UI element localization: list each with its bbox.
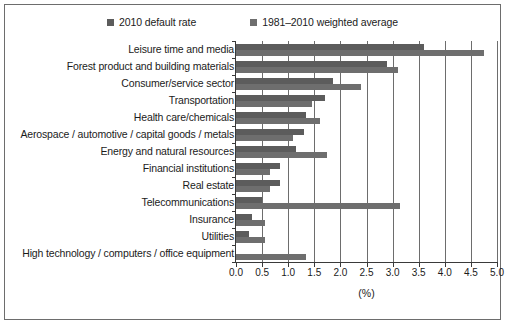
y-axis-category-label: Consumer/service sector: [121, 78, 234, 89]
x-tick-label: 5.0: [490, 268, 504, 278]
y-axis-category-label: Real estate: [183, 180, 234, 191]
bar-weighted-average: [236, 169, 270, 175]
bar-group: [236, 177, 497, 194]
bar-group: [236, 211, 497, 228]
bar-group: [236, 245, 497, 262]
bar-group: [236, 109, 497, 126]
x-tick-label: 2.5: [360, 268, 374, 278]
bar-default-rate: [236, 146, 296, 152]
bar-weighted-average: [236, 203, 400, 209]
chart-legend: 2010 default rate 1981–2010 weighted ave…: [0, 14, 505, 30]
y-axis-line: [235, 41, 236, 262]
x-axis-line: [235, 262, 497, 263]
x-tick-label: 3.5: [412, 268, 426, 278]
bar-weighted-average: [236, 50, 484, 56]
y-axis-category-label: Health care/chemicals: [134, 112, 234, 123]
x-tick-label: 1.0: [281, 268, 295, 278]
y-axis-category-label: Utilities: [202, 231, 235, 242]
bar-default-rate: [236, 129, 304, 135]
x-axis-title: (%): [236, 288, 497, 299]
bar-default-rate: [236, 44, 424, 50]
x-tick-label: 4.0: [438, 268, 452, 278]
legend-label-weighted-average: 1981–2010 weighted average: [262, 17, 398, 28]
bar-default-rate: [236, 180, 280, 186]
bar-default-rate: [236, 61, 387, 67]
bar-weighted-average: [236, 254, 306, 260]
y-axis-category-label: Transportation: [169, 95, 234, 106]
bar-default-rate: [236, 95, 325, 101]
y-axis-category-label: Forest product and building materials: [67, 61, 234, 72]
bar-group: [236, 160, 497, 177]
bar-default-rate: [236, 78, 333, 84]
y-axis-category-label: High technology / computers / office equ…: [22, 248, 234, 259]
legend-swatch-default-rate: [107, 19, 114, 26]
bar-default-rate: [236, 163, 280, 169]
x-tick-label: 0.0: [229, 268, 243, 278]
bar-group: [236, 143, 497, 160]
x-tick-label: 1.5: [307, 268, 321, 278]
bar-default-rate: [236, 214, 252, 220]
y-axis-category-label: Leisure time and media: [128, 44, 234, 55]
bar-default-rate: [236, 112, 306, 118]
bar-group: [236, 194, 497, 211]
y-axis-category-label: Aerospace / automotive / capital goods /…: [20, 129, 234, 140]
bar-group: [236, 92, 497, 109]
legend-entry-weighted-average: 1981–2010 weighted average: [250, 17, 398, 28]
x-tick-label: 2.0: [333, 268, 347, 278]
bar-weighted-average: [236, 67, 398, 73]
y-axis-category-label: Financial institutions: [143, 163, 234, 174]
bar-group: [236, 75, 497, 92]
bar-weighted-average: [236, 186, 270, 192]
legend-entry-default-rate: 2010 default rate: [107, 17, 196, 28]
bar-group: [236, 228, 497, 245]
bar-weighted-average: [236, 152, 327, 158]
plot-area: [236, 41, 497, 262]
bar-group: [236, 41, 497, 58]
y-axis-labels: Leisure time and mediaForest product and…: [6, 41, 234, 262]
bar-weighted-average: [236, 118, 320, 124]
bar-group: [236, 58, 497, 75]
y-axis-category-label: Insurance: [189, 214, 234, 225]
y-axis-category-label: Energy and natural resources: [100, 146, 234, 157]
y-axis-category-label: Telecommunications: [142, 197, 234, 208]
gridline: [497, 41, 498, 262]
bar-default-rate: [236, 231, 249, 237]
legend-swatch-weighted-average: [250, 19, 257, 26]
bar-weighted-average: [236, 237, 265, 243]
bar-default-rate: [236, 197, 262, 203]
bar-weighted-average: [236, 101, 312, 107]
x-tick-label: 3.0: [386, 268, 400, 278]
x-tick-label: 4.5: [464, 268, 478, 278]
bar-weighted-average: [236, 84, 361, 90]
legend-label-default-rate: 2010 default rate: [119, 17, 196, 28]
bar-weighted-average: [236, 135, 293, 141]
x-axis-tick-labels: 0.00.51.01.52.02.53.03.54.04.55.0: [236, 268, 497, 282]
bar-group: [236, 126, 497, 143]
x-tick-label: 0.5: [255, 268, 269, 278]
chart-figure: 2010 default rate 1981–2010 weighted ave…: [0, 0, 505, 324]
bar-weighted-average: [236, 220, 265, 226]
